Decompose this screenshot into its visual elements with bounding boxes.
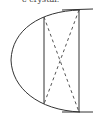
- dashed-diagonal-2: [44, 10, 79, 104]
- diagram: [0, 0, 95, 119]
- dashed-diagonal-1: [44, 17, 79, 112]
- top-line: [62, 9, 93, 10]
- curved-left-edge: [11, 10, 80, 112]
